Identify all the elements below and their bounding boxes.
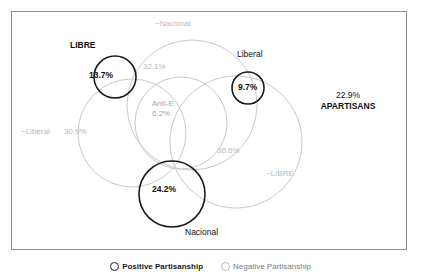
label-liberal: Liberal (237, 50, 263, 60)
venn-figure: LIBRE Liberal Nacional ~Nacional ~Libera… (0, 0, 421, 272)
label-nacional: Nacional (185, 228, 218, 238)
legend-label-negative: Negative Partisanship (233, 262, 311, 271)
value-not-liberal: 30.9% (64, 128, 87, 137)
legend-label-positive: Positive Partisanship (122, 262, 203, 271)
label-anti-establishment: Anti-E (152, 100, 174, 109)
circle-swatch-icon (110, 262, 119, 271)
value-libre: 13.7% (89, 71, 113, 81)
circle-swatch-icon (221, 262, 230, 271)
circle-not-liberal (78, 79, 186, 187)
value-liberal: 9.7% (238, 83, 257, 93)
legend-item-positive: Positive Partisanship (110, 262, 203, 271)
label-libre: LIBRE (70, 41, 96, 51)
legend: Positive Partisanship Negative Partisans… (0, 262, 421, 272)
label-not-libre: ~LIBRE (266, 170, 294, 179)
apartisans-percent: 22.9% (300, 90, 396, 100)
apartisans-label: APARTISANS (300, 101, 396, 111)
value-not-libre: 38.6% (217, 147, 240, 156)
label-not-liberal: ~Liberal (21, 128, 50, 137)
circle-not-libre (170, 76, 302, 208)
apartisans-group: 22.9% APARTISANS (300, 90, 396, 111)
value-anti-establishment: 6.2% (152, 110, 170, 119)
label-not-nacional: ~Nacional (155, 20, 191, 29)
value-nacional: 24.2% (152, 185, 176, 195)
value-not-nacional: 32.1% (143, 63, 166, 72)
legend-item-negative: Negative Partisanship (221, 262, 311, 271)
